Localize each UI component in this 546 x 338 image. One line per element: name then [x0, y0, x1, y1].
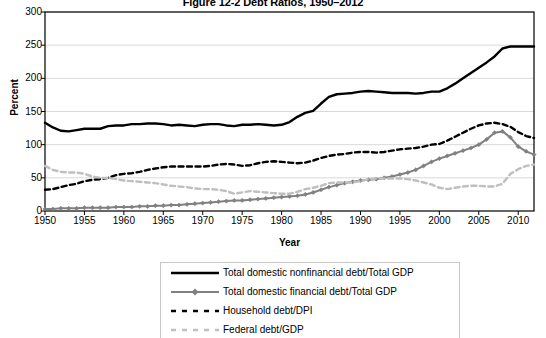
series-marker-1 — [224, 199, 228, 203]
series-marker-1 — [295, 194, 299, 198]
series-line-3 — [45, 165, 534, 194]
series-marker-1 — [74, 206, 78, 210]
series-marker-1 — [303, 192, 307, 196]
series-marker-1 — [280, 195, 284, 199]
series-marker-1 — [153, 204, 157, 208]
series-marker-1 — [177, 203, 181, 207]
legend-item[interactable]: Household debt/DPI — [161, 301, 461, 320]
legend-label: Total domestic nonfinancial debt/Total G… — [223, 263, 414, 282]
series-marker-1 — [138, 204, 142, 208]
legend-label: Total domestic financial debt/Total GDP — [223, 282, 397, 301]
series-marker-1 — [98, 206, 102, 210]
legend-swatch-icon — [169, 320, 221, 338]
series-marker-1 — [67, 206, 71, 210]
chart-legend: Total domestic nonfinancial debt/Total G… — [160, 262, 460, 338]
legend-item[interactable]: Total domestic nonfinancial debt/Total G… — [161, 263, 461, 282]
series-marker-1 — [264, 196, 268, 200]
series-marker-1 — [114, 205, 118, 209]
series-line-0 — [45, 46, 534, 131]
series-marker-1 — [161, 204, 165, 208]
series-marker-1 — [59, 206, 63, 210]
legend-swatch-icon — [169, 301, 221, 320]
legend-item[interactable]: Total domestic financial debt/Total GDP — [161, 282, 461, 301]
legend-swatch-icon — [169, 263, 221, 282]
series-marker-1 — [185, 202, 189, 206]
legend-label: Household debt/DPI — [223, 301, 313, 320]
legend-item[interactable]: Federal debt/GDP — [161, 320, 461, 338]
legend-label: Federal debt/GDP — [223, 320, 304, 338]
series-marker-1 — [169, 203, 173, 207]
series-marker-1 — [145, 204, 149, 208]
figure-container: Figure 12-2 Debt Ratios, 1950–2012 Perce… — [0, 0, 546, 338]
series-marker-1 — [130, 205, 134, 209]
series-marker-1 — [106, 206, 110, 210]
series-marker-1 — [256, 197, 260, 201]
series-marker-1 — [272, 196, 276, 200]
series-marker-1 — [82, 206, 86, 210]
legend-swatch-icon — [169, 282, 221, 301]
series-marker-1 — [209, 200, 213, 204]
series-marker-1 — [122, 205, 126, 209]
series-marker-1 — [90, 206, 94, 210]
series-marker-1 — [193, 202, 197, 206]
series-marker-1 — [232, 198, 236, 202]
series-marker-1 — [201, 201, 205, 205]
series-marker-1 — [398, 172, 402, 176]
series-marker-1 — [248, 198, 252, 202]
series-marker-1 — [240, 198, 244, 202]
series-marker-1 — [216, 200, 220, 204]
